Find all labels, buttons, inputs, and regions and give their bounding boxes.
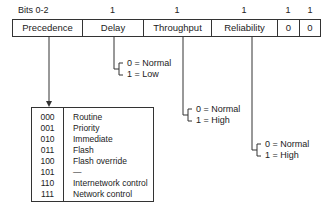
throughput-options: 0 = Normal 1 = High: [196, 104, 240, 126]
field-precedence: Precedence: [12, 19, 83, 37]
table-divider: [63, 108, 64, 201]
field-reliability: Reliability: [211, 19, 278, 37]
reliability-option-high: 1 = High: [265, 150, 309, 161]
code-row: 111: [32, 189, 63, 200]
precedence-codes: 000 001 010 011 100 101 110 111: [32, 112, 63, 200]
code-row: 011: [32, 145, 63, 156]
bits-label-reliability: 1: [211, 5, 277, 16]
bits-label-throughput: 1: [143, 5, 211, 16]
name-row: Flash: [73, 145, 148, 156]
code-row: 110: [32, 178, 63, 189]
delay-option-normal: 0 = Normal: [127, 58, 171, 69]
name-row: Flash override: [73, 156, 148, 167]
reliability-option-normal: 0 = Normal: [265, 139, 309, 150]
code-row: 000: [32, 112, 63, 123]
throughput-option-normal: 0 = Normal: [196, 104, 240, 115]
bits-label-precedence: Bits 0-2: [18, 5, 58, 16]
field-unused-2: 0: [299, 19, 321, 37]
name-row: —: [73, 167, 148, 178]
field-throughput: Throughput: [143, 19, 212, 37]
name-row: Immediate: [73, 134, 148, 145]
code-row: 100: [32, 156, 63, 167]
reliability-options: 0 = Normal 1 = High: [265, 139, 309, 161]
precedence-names: Routine Priority Immediate Flash Flash o…: [73, 112, 148, 200]
field-unused-1: 0: [277, 19, 300, 37]
code-row: 010: [32, 134, 63, 145]
code-row: 101: [32, 167, 63, 178]
bits-label-unused-1: 1: [277, 5, 299, 16]
name-row: Internetwork control: [73, 178, 148, 189]
delay-option-low: 1 = Low: [127, 69, 171, 80]
bits-label-unused-2: 1: [299, 5, 321, 16]
throughput-option-high: 1 = High: [196, 115, 240, 126]
field-delay: Delay: [82, 19, 144, 37]
name-row: Routine: [73, 112, 148, 123]
precedence-table: 000 001 010 011 100 101 110 111 Routine …: [31, 107, 154, 202]
name-row: Network control: [73, 189, 148, 200]
delay-options: 0 = Normal 1 = Low: [127, 58, 171, 80]
code-row: 001: [32, 123, 63, 134]
bits-label-delay: 1: [82, 5, 143, 16]
name-row: Priority: [73, 123, 148, 134]
